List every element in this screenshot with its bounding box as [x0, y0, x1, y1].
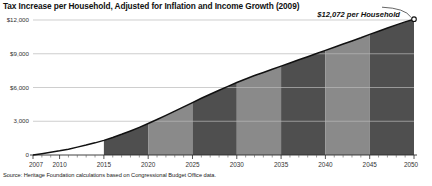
x-tick-label-2015: 2015 [97, 161, 112, 168]
x-axis-ticks [33, 155, 414, 159]
source-note: Source: Heritage Foundation calculations… [3, 172, 216, 178]
chart-plot-area: 03,000$6,000$9,000$12,000200720102015202… [0, 0, 432, 186]
y-tick-label-12000: $12,000 [7, 16, 30, 23]
x-tick-label-2010: 2010 [52, 161, 67, 168]
x-tick-label-2045: 2045 [363, 161, 378, 168]
x-axis-labels: 2007201020152020202520302035204020452050 [29, 161, 419, 168]
endpoint-marker [412, 17, 417, 22]
y-tick-label-3000: 3,000 [14, 117, 30, 124]
x-tick-label-2007: 2007 [29, 161, 44, 168]
x-tick-label-2030: 2030 [230, 161, 245, 168]
x-tick-label-2025: 2025 [185, 161, 200, 168]
x-tick-label-2040: 2040 [318, 161, 333, 168]
y-tick-label-6000: $6,000 [10, 84, 29, 91]
annotation-leader-line [382, 7, 411, 17]
y-tick-label-0: 0 [26, 151, 30, 158]
y-axis-labels: 03,000$6,000$9,000$12,000 [7, 16, 30, 158]
x-tick-label-2050: 2050 [404, 161, 419, 168]
x-tick-label-2020: 2020 [141, 161, 156, 168]
y-tick-label-9000: $9,000 [10, 50, 29, 57]
chart-figure: Tax Increase per Household, Adjusted for… [0, 0, 432, 186]
x-tick-label-2035: 2035 [274, 161, 289, 168]
